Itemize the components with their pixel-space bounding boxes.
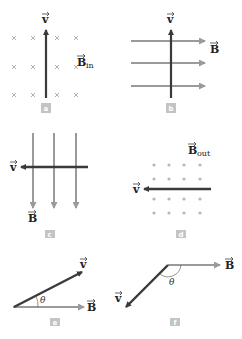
b-label: B (28, 212, 37, 225)
panel-f: θ v B f (114, 257, 234, 327)
panel-tag-letter: c (48, 231, 52, 239)
velocity-arrow (126, 265, 168, 307)
panel-a: v B in a (12, 12, 94, 113)
panel-d: v B out d (132, 142, 211, 239)
panel-tag-letter: d (179, 231, 184, 239)
b-label: B (225, 259, 234, 272)
panel-b: v B b (131, 12, 219, 113)
theta-label: θ (40, 295, 46, 305)
angle-arc (36, 296, 38, 307)
panel-e: θ v B e (13, 257, 96, 327)
b-subscript: out (197, 149, 211, 158)
magnetic-force-diagram: v B in a v B b v B c (0, 0, 242, 339)
theta-label: θ (169, 277, 175, 287)
b-label: B (210, 43, 219, 56)
b-label: B (77, 56, 86, 69)
panel-tag-letter: a (44, 105, 49, 113)
b-label: B (188, 144, 197, 157)
b-subscript: in (86, 61, 94, 70)
b-label: B (87, 301, 96, 314)
panel-c: v B c (9, 133, 88, 239)
panel-tag-letter: e (53, 319, 58, 327)
velocity-arrow (14, 272, 82, 307)
panel-tag-letter: b (169, 105, 174, 113)
